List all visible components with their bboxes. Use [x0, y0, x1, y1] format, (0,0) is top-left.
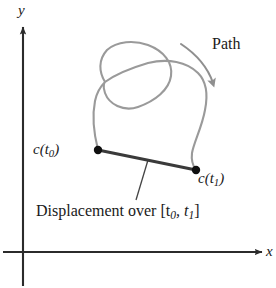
- c-t1-suffix: ): [219, 170, 224, 186]
- y-axis-label: y: [18, 3, 25, 18]
- c-t1-label: c(t1): [198, 171, 224, 188]
- path-displacement-figure: y x Path c(t0) c(t1) Displacement over […: [0, 0, 276, 288]
- displacement-segment: [98, 150, 196, 170]
- c-t1-prefix: c(t: [198, 170, 214, 186]
- path-direction-arrow-icon: [181, 44, 213, 83]
- displacement-mid: , t: [176, 202, 188, 219]
- displacement-suffix: ]: [194, 202, 199, 219]
- c-t0-label: c(t0): [33, 142, 59, 159]
- path-curve: [94, 42, 207, 170]
- c-t0-prefix: c(t: [33, 141, 49, 157]
- displacement-caption: Displacement over [t0, t1]: [36, 203, 199, 222]
- path-label: Path: [212, 36, 240, 52]
- endpoint-dot-c-t0: [94, 146, 102, 154]
- displacement-prefix: Displacement over [t: [36, 202, 170, 219]
- displacement-leader-line: [136, 160, 148, 200]
- x-axis-label: x: [266, 244, 273, 259]
- c-t0-suffix: ): [54, 141, 59, 157]
